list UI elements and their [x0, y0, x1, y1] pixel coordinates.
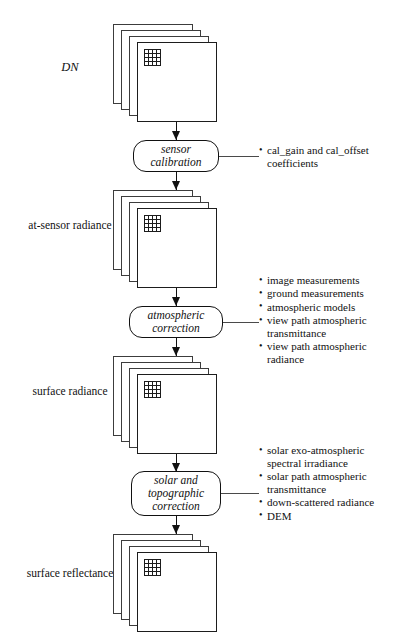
note-item: atmospheric models: [259, 301, 391, 314]
stack-sheet-front: [137, 374, 217, 454]
notes-list: image measurements ground measurements a…: [259, 274, 391, 366]
notes-list: solar exo-atmospheric spectral irradianc…: [259, 444, 391, 523]
stack-sheet-front: [137, 208, 217, 288]
process-atmospheric-correction[interactable]: atmospheric correction: [129, 306, 223, 338]
image-stack-surface-reflectance: [113, 534, 217, 638]
process-solar-and-topographic-correction-label: solar and topographic correction: [148, 474, 204, 513]
image-stack-dn: [113, 24, 217, 128]
notes-sensor-calibration-inputs: cal_gain and cal_offset coefficients: [259, 144, 391, 170]
note-item: image measurements: [259, 274, 391, 287]
note-item: DEM: [259, 510, 391, 523]
connector-atmospheric-correction-to-notes: [223, 322, 259, 323]
pixel-grid-icon: [144, 49, 161, 66]
note-item: down-scattered radiance: [259, 496, 391, 509]
flowchart-diagram: DN sensor calibration cal_gain and cal_o…: [0, 0, 394, 642]
stack-sheet-front: [137, 552, 217, 632]
pixel-grid-icon: [144, 381, 161, 398]
notes-solar-topographic-correction-inputs: solar exo-atmospheric spectral irradianc…: [259, 444, 391, 523]
notes-atmospheric-correction-inputs: image measurements ground measurements a…: [259, 274, 391, 367]
stage-label-dn: DN: [22, 61, 118, 75]
connector-sensor-calibration-to-notes: [219, 156, 259, 157]
image-stack-at-sensor-radiance: [113, 190, 217, 294]
process-atmospheric-correction-label: atmospheric correction: [148, 309, 205, 335]
pixel-grid-icon: [144, 559, 161, 576]
arrowhead-icon: [172, 347, 180, 356]
arrowhead-icon: [172, 131, 180, 140]
stage-label-at-sensor-radiance: at-sensor radiance: [12, 219, 128, 232]
note-item: ground measurements: [259, 287, 391, 300]
process-sensor-calibration[interactable]: sensor calibration: [133, 140, 219, 172]
note-item: view path atmospheric radiance: [259, 340, 391, 366]
stage-label-surface-radiance: surface radiance: [12, 385, 128, 398]
notes-list: cal_gain and cal_offset coefficients: [259, 144, 391, 170]
arrowhead-icon: [172, 181, 180, 190]
image-stack-surface-radiance: [113, 356, 217, 460]
arrowhead-icon: [172, 297, 180, 306]
process-solar-and-topographic-correction[interactable]: solar and topographic correction: [131, 471, 221, 516]
note-item: view path atmospheric transmittance: [259, 314, 391, 340]
note-item: solar path atmospheric transmittance: [259, 470, 391, 496]
connector-solar-topographic-correction-to-notes: [221, 493, 259, 494]
note-item: solar exo-atmospheric spectral irradianc…: [259, 444, 391, 470]
pixel-grid-icon: [144, 215, 161, 232]
arrowhead-icon: [172, 525, 180, 534]
process-sensor-calibration-label: sensor calibration: [150, 143, 201, 169]
note-item: cal_gain and cal_offset coefficients: [259, 144, 391, 170]
stack-sheet-front: [137, 42, 217, 122]
